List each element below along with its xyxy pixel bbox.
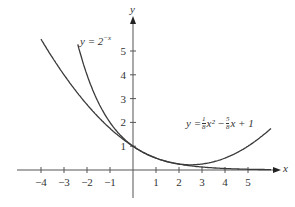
x-tick-label: 2 — [176, 176, 182, 188]
x-axis-label: x — [283, 163, 288, 174]
curve-2 — [41, 39, 271, 165]
y-tick-label: 4 — [121, 69, 127, 81]
axes: −4−3−2−11234512345 — [17, 16, 281, 198]
y-axis-arrow-icon — [130, 16, 136, 24]
x-tick-label: −1 — [104, 176, 116, 188]
x-tick-label: 4 — [222, 176, 228, 188]
x-axis-arrow-icon — [273, 167, 281, 173]
x-tick-label: 5 — [245, 176, 251, 188]
y-tick-label: 5 — [121, 45, 127, 57]
y-axis-label: y — [130, 4, 135, 15]
chart-canvas: −4−3−2−11234512345 — [0, 0, 295, 207]
x-tick-label: −2 — [81, 176, 93, 188]
curve-1 — [78, 44, 271, 169]
y-tick-label: 3 — [121, 93, 127, 105]
x-tick-label: 3 — [199, 176, 205, 188]
x-tick-label: 1 — [153, 176, 159, 188]
x-tick-label: −3 — [58, 176, 70, 188]
x-tick-label: −4 — [35, 176, 47, 188]
curve1-label: y = 2−x — [80, 35, 111, 47]
curves — [41, 39, 271, 170]
y-tick-label: 2 — [121, 116, 127, 128]
y-tick-label: 1 — [121, 140, 127, 152]
curve2-label: y = 18 x² − 58 x + 1 — [186, 116, 254, 131]
